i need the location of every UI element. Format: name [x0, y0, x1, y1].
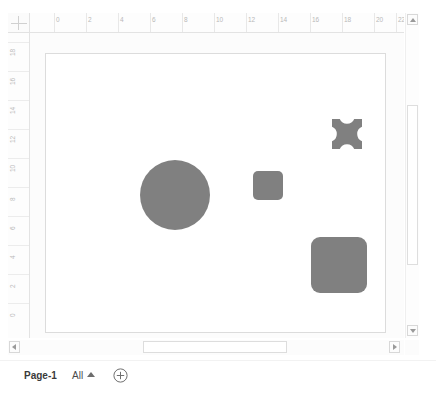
ruler-v-label: 0	[9, 313, 16, 317]
ruler-h-tick	[182, 13, 183, 33]
page-tab-page-1[interactable]: Page-1	[24, 370, 57, 381]
status-bar: Page-1 All	[0, 360, 436, 394]
drawing-page[interactable]	[45, 53, 386, 333]
ruler-h-tick	[342, 13, 343, 33]
ruler-h-label: 10	[216, 16, 223, 23]
ruler-h-tick	[86, 13, 87, 33]
scrollbar-corner	[405, 340, 419, 355]
plus-circle-icon	[113, 368, 128, 383]
add-page-button[interactable]	[113, 368, 128, 383]
ruler-corner-marker[interactable]	[8, 13, 30, 33]
circle-shape[interactable]	[140, 160, 210, 230]
caret-up-icon	[87, 372, 95, 377]
ruler-v-label: 16	[9, 78, 16, 85]
ruler-v-tick	[8, 71, 30, 72]
scroll-left-button[interactable]	[9, 341, 20, 353]
ruler-h-label: 12	[248, 16, 255, 23]
small-rounded-rect-shape[interactable]	[253, 171, 283, 200]
ruler-v-tick	[8, 100, 30, 101]
ruler-h-tick	[118, 13, 119, 33]
horizontal-scrollbar-thumb[interactable]	[143, 341, 287, 353]
vertical-scrollbar[interactable]	[405, 13, 419, 338]
ruler-h-label: 0	[56, 16, 60, 23]
triangle-down-icon	[410, 329, 416, 333]
ruler-v-tick	[8, 216, 30, 217]
scroll-down-button[interactable]	[407, 325, 418, 336]
large-rounded-rect-shape[interactable]	[311, 237, 367, 293]
ruler-h-label: 20	[376, 16, 383, 23]
ruler-h-label: 2	[88, 16, 92, 23]
notched-square-shape[interactable]	[332, 119, 362, 149]
ruler-corner-horizontal-line	[11, 23, 27, 24]
ruler-h-tick	[54, 13, 55, 33]
ruler-h-tick	[150, 13, 151, 33]
ruler-v-tick	[8, 245, 30, 246]
ruler-h-tick	[310, 13, 311, 33]
triangle-up-icon	[410, 18, 416, 22]
ruler-h-label: 4	[120, 16, 124, 23]
horizontal-scrollbar[interactable]	[8, 340, 404, 355]
ruler-v-label: 6	[9, 226, 16, 230]
all-pages-label: All	[72, 370, 83, 381]
triangle-left-icon	[12, 344, 16, 350]
ruler-v-label: 10	[9, 165, 16, 172]
vertical-scrollbar-thumb[interactable]	[407, 105, 418, 265]
ruler-v-tick	[8, 129, 30, 130]
drawing-canvas[interactable]	[30, 33, 404, 338]
ruler-h-tick	[278, 13, 279, 33]
vertical-ruler[interactable]: 181614121086420	[8, 33, 30, 338]
scroll-up-button[interactable]	[407, 14, 418, 25]
ruler-v-label: 14	[9, 107, 16, 114]
ruler-v-tick	[8, 303, 30, 304]
ruler-h-label: 8	[184, 16, 188, 23]
horizontal-ruler[interactable]: 0246810121416182022	[30, 13, 404, 33]
ruler-v-label: 2	[9, 284, 16, 288]
ruler-h-tick	[214, 13, 215, 33]
ruler-v-label: 12	[9, 136, 16, 143]
ruler-h-label: 18	[344, 16, 351, 23]
ruler-v-tick	[8, 187, 30, 188]
ruler-h-tick	[374, 13, 375, 33]
ruler-h-label: 6	[152, 16, 156, 23]
ruler-h-label: 16	[312, 16, 319, 23]
ruler-v-tick	[8, 274, 30, 275]
all-pages-button[interactable]: All	[72, 370, 95, 381]
triangle-right-icon	[393, 344, 397, 350]
ruler-v-label: 18	[9, 49, 16, 56]
ruler-h-tick	[396, 13, 397, 33]
ruler-v-label: 8	[9, 197, 16, 201]
scroll-right-button[interactable]	[389, 341, 400, 353]
ruler-v-tick	[8, 42, 30, 43]
visio-window: 0246810121416182022 181614121086420 Page…	[0, 0, 436, 394]
ruler-h-tick	[246, 13, 247, 33]
ruler-v-tick	[8, 158, 30, 159]
ruler-h-label: 14	[280, 16, 287, 23]
ruler-v-label: 4	[9, 255, 16, 259]
notched-square-path	[332, 119, 362, 149]
ruler-h-label: 22	[398, 16, 404, 23]
